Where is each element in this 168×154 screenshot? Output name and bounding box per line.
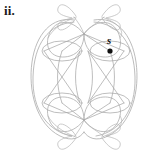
diagonal-hub-to-right-upper [84,34,124,51]
upper-left-lobe [48,22,84,57]
bottom-right-bow-stem [84,120,104,137]
graph-drawing-svg [0,0,168,154]
lower-lobe-edges [42,93,130,132]
bottom-right-bow-loop [102,124,120,149]
diagonal-lower-hub-to-left-upper [44,103,84,120]
vertex-marker-s [107,48,112,53]
bottom-center-lens-left [48,116,76,137]
figure-container: ii. [0,0,168,154]
top-right-bow-stem [84,17,104,34]
lower-left-lobe [48,97,84,132]
crossing-diagonal-edges [44,34,124,120]
diagonal-lower-hub-to-right-upper [84,103,124,120]
top-right-bow-loop [102,5,120,30]
center-left-waist [58,51,63,103]
top-left-bow-loop [58,5,76,30]
vertex-label-s: s [107,35,111,46]
center-inner-left-waist [76,51,81,103]
center-inner-right-waist [88,51,93,103]
upper-lobe-edges [42,22,130,61]
diagonal-hub-to-left-upper [44,34,84,51]
center-right-waist [110,51,115,103]
